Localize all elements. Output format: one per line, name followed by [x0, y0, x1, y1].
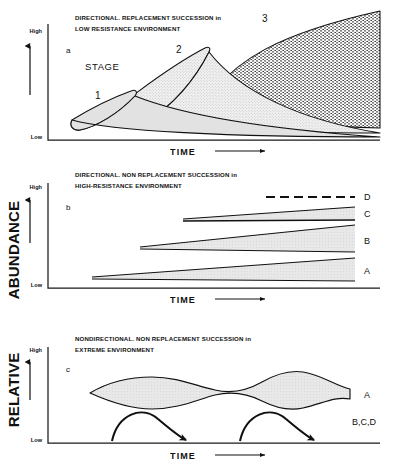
panel-a-title-line2: LOW RESISTANCE ENVIRONMENT — [75, 25, 180, 32]
panel-c-title-line2: EXTREME ENVIRONMENT — [75, 346, 154, 353]
panel-a-stage-label-2: 2 — [176, 44, 182, 55]
panel-b-series-label-D: D — [364, 192, 371, 202]
panel-b-letter: b — [66, 203, 71, 212]
succession-figure: ABUNDANCE RELATIVE High Low DIRECTIONAL.… — [0, 0, 393, 466]
panel-a-stage-label-3: 3 — [262, 13, 268, 24]
panel-c-low-label: Low — [31, 437, 43, 443]
panel-c-title-line1: NONDIRECTIONAL. NON REPLACEMENT SUCCESSI… — [75, 335, 251, 342]
panel-c-series-label-A: A — [364, 390, 370, 400]
panel-a-stage-label-1: 1 — [95, 90, 101, 101]
panel-b-series-label-A: A — [364, 266, 370, 276]
panel-b-time-label: TIME — [170, 295, 196, 305]
panel-b-high-label: High — [30, 184, 43, 190]
panel-b-title-line1: DIRECTIONAL. NON REPLACEMENT SUCCESSION … — [75, 171, 237, 178]
panel-b-title-line2: HIGH-RESISTANCE ENVIRONMENT — [75, 182, 182, 189]
panel-b-low-label: Low — [31, 282, 43, 288]
y-axis-label-relative: RELATIVE — [5, 353, 22, 428]
panel-a-high-label: High — [30, 28, 43, 34]
panel-c-time-label: TIME — [170, 451, 196, 461]
panel-c-series-label-BCD: B,C,D — [352, 417, 377, 427]
panel-a-time-label: TIME — [170, 147, 196, 157]
panel-a-title-line1: DIRECTIONAL. REPLACEMENT SUCCESSION in — [75, 14, 221, 21]
panel-a-low-label: Low — [31, 134, 43, 140]
panel-b-series-label-C: C — [364, 209, 371, 219]
panel-a-stage-word: STAGE — [85, 61, 120, 72]
panel-c-high-label: High — [30, 347, 43, 353]
y-axis-label-abundance: ABUNDANCE — [5, 201, 22, 299]
panel-b-series-label-B: B — [364, 236, 370, 246]
panel-c-letter: c — [66, 365, 70, 374]
panel-a-letter: a — [66, 46, 71, 55]
